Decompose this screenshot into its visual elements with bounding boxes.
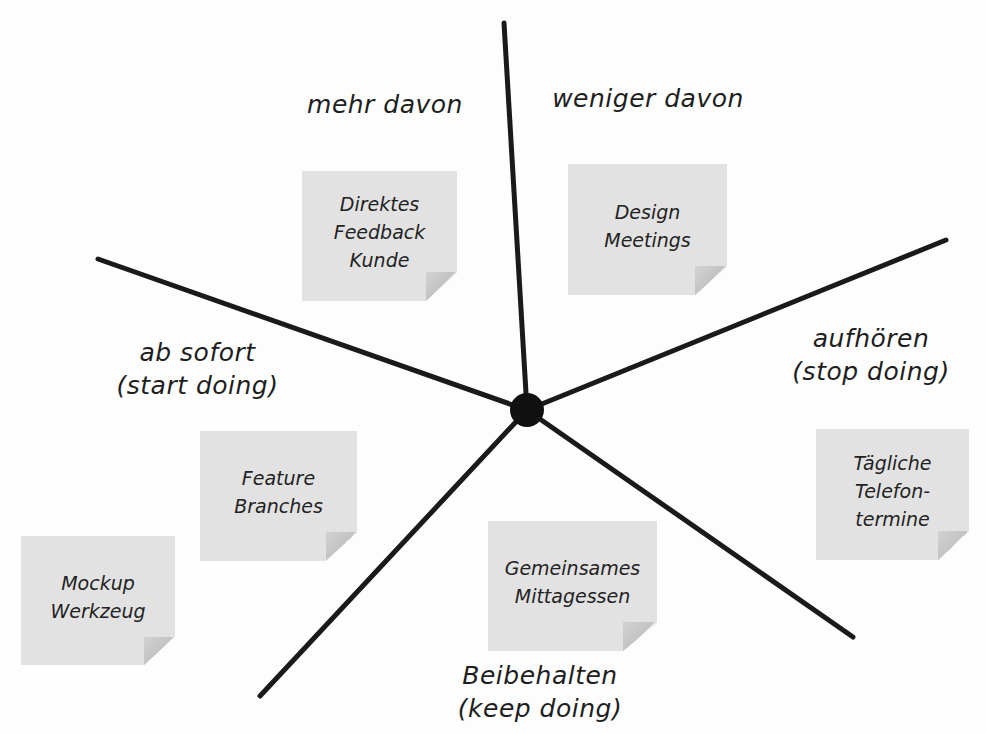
center-dot (510, 393, 544, 427)
note-line: Mockup (50, 569, 145, 597)
note-line: Kunde (334, 246, 426, 274)
sticky-note-feature-branches[interactable]: Feature Branches (200, 431, 357, 561)
label-start-doing: ab sofort (start doing) (100, 336, 295, 402)
note-line: Meetings (604, 226, 691, 254)
note-line: Tägliche (853, 449, 931, 477)
note-line: Feature (234, 464, 323, 492)
sticky-note-taegliche-telefontermine[interactable]: Tägliche Telefon- termine (816, 429, 969, 560)
label-keep-line2: (keep doing) (445, 692, 635, 725)
note-text: Tägliche Telefon- termine (853, 449, 931, 533)
label-less-of: weniger davon (548, 82, 748, 115)
sticky-note-gemeinsames-mittagessen[interactable]: Gemeinsames Mittagessen (488, 521, 657, 651)
sticky-note-mockup-werkzeug[interactable]: Mockup Werkzeug (21, 536, 175, 665)
label-more-of-text: mehr davon (300, 88, 470, 121)
note-line: Gemeinsames (505, 554, 641, 582)
spoke-top (504, 23, 527, 410)
label-start-line2: (start doing) (100, 369, 295, 402)
sticky-note-design-meetings[interactable]: Design Meetings (568, 164, 727, 295)
note-line: Werkzeug (50, 597, 145, 625)
label-start-line1: ab sofort (100, 336, 295, 369)
note-text: Feature Branches (234, 464, 323, 520)
note-line: Telefon- (853, 477, 931, 505)
label-more-of: mehr davon (300, 88, 470, 121)
label-stop-line2: (stop doing) (776, 355, 966, 388)
note-text: Gemeinsames Mittagessen (505, 554, 641, 610)
note-line: Design (604, 198, 691, 226)
label-keep-doing: Beibehalten (keep doing) (445, 659, 635, 725)
note-text: Design Meetings (604, 198, 691, 254)
label-less-of-text: weniger davon (548, 82, 748, 115)
note-line: termine (853, 505, 931, 533)
note-line: Branches (234, 492, 323, 520)
note-line: Feedback (334, 218, 426, 246)
note-line: Direktes (334, 190, 426, 218)
sticky-note-direktes-feedback[interactable]: Direktes Feedback Kunde (302, 171, 457, 301)
starfish-retrospective-diagram: mehr davon weniger davon aufhören (stop … (0, 0, 987, 734)
note-text: Mockup Werkzeug (50, 569, 145, 625)
note-text: Direktes Feedback Kunde (334, 190, 426, 274)
note-line: Mittagessen (505, 582, 641, 610)
label-stop-doing: aufhören (stop doing) (776, 322, 966, 388)
label-keep-line1: Beibehalten (445, 659, 635, 692)
label-stop-line1: aufhören (776, 322, 966, 355)
